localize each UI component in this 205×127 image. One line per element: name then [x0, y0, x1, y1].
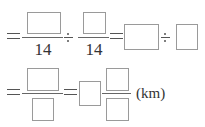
row2-equals-sign-2	[64, 89, 77, 95]
row1-fraction2-numerator-box[interactable]	[83, 12, 106, 34]
row1-answer-box-2[interactable]	[176, 24, 198, 50]
row2-mixed-fraction-bar	[102, 93, 131, 94]
row1-divide-sign-2	[161, 33, 170, 42]
row1-equals-sign-2	[110, 33, 123, 39]
row1-fraction1-numerator-box[interactable]	[27, 12, 61, 34]
row2-fraction1-bar	[22, 93, 63, 94]
row1-fraction2-bar	[78, 37, 109, 38]
row1-equals-sign	[7, 33, 20, 39]
row2-fraction1-denominator-box[interactable]	[32, 98, 54, 121]
row1-divide-sign-1	[64, 33, 73, 42]
row1-fraction1-denominator: 14	[28, 41, 58, 58]
row2-equals-sign	[7, 89, 20, 95]
row1-answer-box-1[interactable]	[124, 24, 159, 50]
row2-whole-number-box[interactable]	[79, 81, 101, 106]
row2-unit-label: (km)	[136, 85, 165, 101]
row2-fraction1-numerator-box[interactable]	[27, 68, 59, 91]
row2-mixed-numerator-box[interactable]	[106, 68, 129, 91]
row1-fraction2-denominator: 14	[79, 41, 109, 58]
row1-fraction1-bar	[22, 37, 63, 38]
row2-mixed-denominator-box[interactable]	[106, 98, 129, 121]
